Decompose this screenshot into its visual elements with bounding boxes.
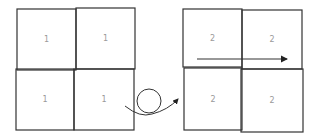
loop-arrow (125, 89, 178, 115)
cell-label: 1 (42, 95, 47, 104)
grid-cell: 1 (16, 69, 74, 130)
right-grid: 2222 (183, 9, 303, 132)
cell-label: 2 (269, 96, 274, 105)
cell-label: 1 (103, 34, 108, 43)
grid-cell: 2 (184, 68, 242, 130)
grid-cell: 2 (183, 9, 242, 67)
grid-cell: 1 (76, 8, 135, 69)
cell-label: 2 (269, 35, 274, 44)
grid-cell: 2 (241, 69, 303, 132)
diagram-canvas: 1111 2222 (0, 0, 312, 139)
cell-label: 2 (210, 95, 215, 104)
grid-cell: 1 (74, 69, 134, 130)
cell-label: 1 (44, 35, 49, 44)
loop-circle-icon (137, 89, 161, 113)
cell-label: 2 (210, 34, 215, 43)
grid-cell: 1 (17, 9, 76, 70)
left-grid: 1111 (16, 8, 135, 130)
cell-label: 1 (101, 95, 106, 104)
grid-cell: 2 (242, 10, 302, 69)
